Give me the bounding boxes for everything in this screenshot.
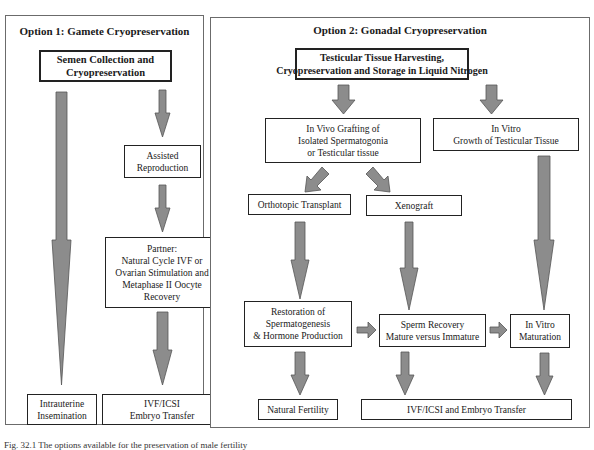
arrow-down-icon (480, 85, 503, 114)
arrow-down-icon (396, 352, 414, 395)
arrow-right-icon (490, 322, 507, 338)
arrow-diagonal-icon (305, 167, 329, 192)
arrow-down-icon (536, 353, 553, 395)
arrow-down-icon (155, 185, 170, 232)
arrow-down-icon (291, 352, 309, 395)
arrow-down-icon (332, 85, 355, 114)
arrow-diagonal-icon (366, 167, 390, 192)
arrow-down-icon (155, 90, 170, 137)
arrow-down-icon (291, 222, 309, 299)
arrow-down-icon (153, 312, 172, 385)
arrow-right-icon (357, 322, 376, 338)
figure-caption: Fig. 32.1 The options available for the … (4, 440, 247, 450)
arrow-down-icon (534, 156, 554, 310)
arrow-down-icon (52, 92, 71, 385)
arrow-down-icon (400, 222, 418, 310)
